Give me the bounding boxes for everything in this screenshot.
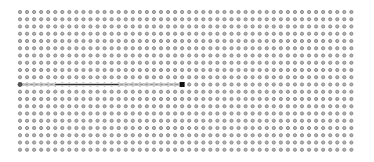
grid-dot[interactable] [307,148,310,151]
grid-dot[interactable] [181,134,184,137]
grid-dot[interactable] [68,126,71,129]
grid-dot[interactable] [25,134,28,137]
grid-dot[interactable] [216,105,219,108]
grid-dot[interactable] [89,76,92,79]
grid-dot[interactable] [216,61,219,64]
grid-dot[interactable] [47,18,50,21]
grid-dot[interactable] [272,148,275,151]
grid-dot[interactable] [54,97,57,100]
grid-dot[interactable] [25,47,28,50]
grid-dot[interactable] [307,134,310,137]
grid-dot[interactable] [293,47,296,50]
grid-dot[interactable] [300,112,303,115]
grid-dot[interactable] [244,47,247,50]
grid-dot[interactable] [322,112,325,115]
grid-dot[interactable] [315,112,318,115]
grid-dot[interactable] [188,141,191,144]
grid-dot[interactable] [343,25,346,28]
grid-dot[interactable] [131,39,134,42]
grid-dot[interactable] [110,10,113,13]
grid-dot[interactable] [25,39,28,42]
grid-dot[interactable] [131,126,134,129]
grid-dot[interactable] [300,54,303,57]
grid-dot[interactable] [138,134,141,137]
grid-dot[interactable] [75,32,78,35]
grid-dot[interactable] [202,148,205,151]
grid-dot[interactable] [322,25,325,28]
grid-dot[interactable] [195,90,198,93]
grid-dot[interactable] [159,126,162,129]
grid-dot[interactable] [286,25,289,28]
grid-dot[interactable] [202,54,205,57]
grid-dot[interactable] [82,54,85,57]
grid-dot[interactable] [350,39,353,42]
grid-dot[interactable] [322,47,325,50]
grid-dot[interactable] [230,141,233,144]
grid-dot[interactable] [209,39,212,42]
grid-dot[interactable] [68,25,71,28]
grid-dot[interactable] [223,97,226,100]
grid-dot[interactable] [159,61,162,64]
grid-dot[interactable] [96,32,99,35]
grid-dot[interactable] [124,112,127,115]
grid-dot[interactable] [110,148,113,151]
grid-dot[interactable] [75,10,78,13]
grid-dot[interactable] [322,32,325,35]
grid-dot[interactable] [251,32,254,35]
grid-dot[interactable] [216,32,219,35]
grid-dot[interactable] [343,68,346,71]
grid-dot[interactable] [209,148,212,151]
grid-dot[interactable] [279,25,282,28]
grid-dot[interactable] [223,112,226,115]
grid-dot[interactable] [336,97,339,100]
grid-dot[interactable] [279,18,282,21]
grid-dot[interactable] [188,32,191,35]
grid-dot[interactable] [159,76,162,79]
grid-dot[interactable] [18,141,21,144]
grid-dot[interactable] [315,25,318,28]
grid-dot[interactable] [174,126,177,129]
grid-dot[interactable] [25,119,28,122]
grid-dot[interactable] [279,126,282,129]
grid-dot[interactable] [350,61,353,64]
grid-dot[interactable] [181,68,184,71]
grid-dot[interactable] [96,119,99,122]
grid-dot[interactable] [152,134,155,137]
grid-dot[interactable] [124,32,127,35]
grid-dot[interactable] [209,10,212,13]
grid-dot[interactable] [230,32,233,35]
grid-dot[interactable] [244,141,247,144]
grid-dot[interactable] [237,10,240,13]
grid-dot[interactable] [117,54,120,57]
grid-dot[interactable] [124,18,127,21]
grid-dot[interactable] [322,61,325,64]
grid-dot[interactable] [237,68,240,71]
grid-dot[interactable] [61,25,64,28]
grid-dot[interactable] [322,105,325,108]
grid-dot[interactable] [103,39,106,42]
grid-dot[interactable] [315,119,318,122]
dot-grid-canvas[interactable] [0,0,374,162]
grid-dot[interactable] [40,32,43,35]
grid-dot[interactable] [216,18,219,21]
grid-dot[interactable] [216,25,219,28]
grid-dot[interactable] [244,148,247,151]
grid-dot[interactable] [293,90,296,93]
grid-dot[interactable] [89,141,92,144]
grid-dot[interactable] [138,54,141,57]
grid-dot[interactable] [286,134,289,137]
grid-dot[interactable] [82,76,85,79]
grid-dot[interactable] [300,10,303,13]
grid-dot[interactable] [75,54,78,57]
grid-dot[interactable] [33,90,36,93]
grid-dot[interactable] [174,25,177,28]
grid-dot[interactable] [315,90,318,93]
grid-dot[interactable] [89,134,92,137]
grid-dot[interactable] [315,39,318,42]
grid-dot[interactable] [61,68,64,71]
grid-dot[interactable] [47,61,50,64]
grid-dot[interactable] [230,25,233,28]
grid-dot[interactable] [181,39,184,42]
grid-dot[interactable] [131,54,134,57]
grid-dot[interactable] [110,112,113,115]
